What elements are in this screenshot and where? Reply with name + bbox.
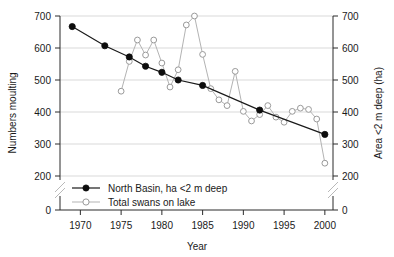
legend-label-total-swans: Total swans on lake — [108, 197, 196, 208]
y-axis-right-break-icon — [328, 182, 338, 198]
data-point — [240, 108, 246, 114]
y-axis-title: Numbers moulting — [7, 72, 18, 153]
series-total-swans — [118, 13, 328, 166]
y-tick-label-500: 500 — [34, 75, 51, 86]
chart-container: 700 600 500 400 300 200 0 Numbers moulti… — [0, 0, 394, 257]
x-axis: 1970197519801985199019952000 Year — [60, 210, 336, 252]
series-north-basin — [69, 23, 328, 137]
data-point — [151, 37, 157, 43]
y-tick-label-700: 700 — [34, 11, 51, 22]
y2-tick-label-200: 200 — [342, 171, 359, 182]
y-tick-label-300: 300 — [34, 139, 51, 150]
y-tick-label-600: 600 — [34, 43, 51, 54]
data-point — [314, 116, 320, 122]
grid-lines — [60, 16, 333, 176]
data-point — [175, 67, 181, 73]
data-point — [232, 68, 238, 74]
y2-tick-label-700: 700 — [342, 11, 359, 22]
legend: North Basin, ha <2 m deep Total swans on… — [72, 183, 228, 208]
y2-tick-label-0: 0 — [342, 205, 348, 216]
data-point — [216, 97, 222, 103]
y-tick-label-400: 400 — [34, 107, 51, 118]
data-point — [135, 37, 141, 43]
y2-tick-label-500: 500 — [342, 75, 359, 86]
legend-marker-filled-circle-icon — [83, 185, 89, 191]
data-point — [159, 60, 165, 66]
data-point — [249, 118, 255, 124]
chart-svg: 700 600 500 400 300 200 0 Numbers moulti… — [0, 0, 394, 257]
x-tick-label-1985: 1985 — [191, 220, 214, 231]
legend-label-north-basin: North Basin, ha <2 m deep — [108, 183, 228, 194]
x-tick-group: 1970197519801985199019952000 — [69, 210, 336, 231]
data-point — [322, 160, 328, 166]
x-tick-label-1970: 1970 — [69, 220, 92, 231]
y-axis-right: 700 600 500 400 300 200 0 Area <2 m deep… — [328, 11, 384, 216]
x-tick-label-2000: 2000 — [314, 220, 337, 231]
data-point — [102, 43, 108, 49]
y-tick-label-200: 200 — [34, 171, 51, 182]
data-point — [175, 77, 181, 83]
data-point — [265, 103, 271, 109]
data-point — [224, 103, 230, 109]
y2-tick-label-600: 600 — [342, 43, 359, 54]
y2-axis-title: Area <2 m deep (ha) — [373, 67, 384, 159]
data-point — [183, 22, 189, 28]
x-tick-label-1975: 1975 — [110, 220, 133, 231]
data-point — [200, 82, 206, 88]
y-tick-label-0: 0 — [45, 205, 51, 216]
data-point — [143, 52, 149, 58]
x-tick-label-1980: 1980 — [151, 220, 174, 231]
data-point — [257, 107, 263, 113]
data-point — [159, 69, 165, 75]
y-axis-left: 700 600 500 400 300 200 0 Numbers moulti… — [7, 11, 65, 216]
data-point — [322, 131, 328, 137]
x-axis-title: Year — [187, 241, 208, 252]
x-tick-label-1990: 1990 — [232, 220, 255, 231]
data-point — [192, 13, 198, 19]
y2-tick-label-400: 400 — [342, 107, 359, 118]
data-point — [306, 107, 312, 113]
data-point — [289, 108, 295, 114]
data-point — [200, 52, 206, 58]
data-point — [142, 63, 148, 69]
legend-marker-open-circle-icon — [83, 199, 89, 205]
data-point — [118, 88, 124, 94]
x-tick-label-1995: 1995 — [273, 220, 296, 231]
data-point — [69, 23, 75, 29]
y2-tick-label-300: 300 — [342, 139, 359, 150]
data-point — [167, 84, 173, 90]
data-point — [126, 54, 132, 60]
data-point — [298, 105, 304, 111]
y-axis-left-break-icon — [55, 182, 65, 198]
